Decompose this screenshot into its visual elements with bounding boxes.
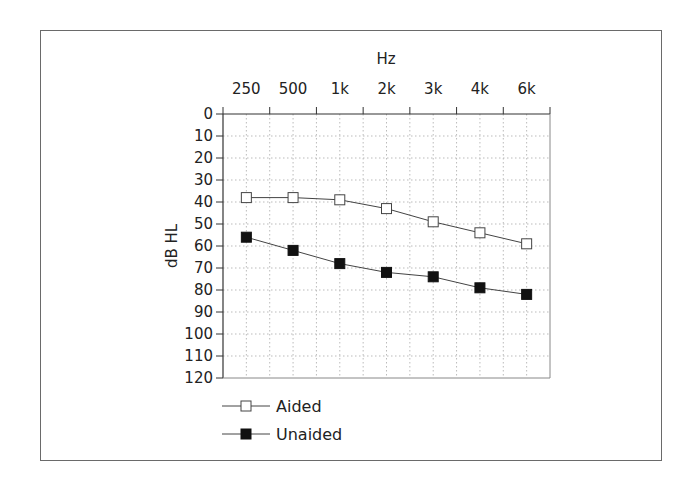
y-tick-label: 40: [194, 193, 213, 211]
aided-data-point: [288, 193, 298, 203]
y-tick-label: 30: [194, 171, 213, 189]
x-tick-label: 4k: [471, 80, 490, 98]
y-tick-label: 20: [194, 149, 213, 167]
y-tick-label: 70: [194, 259, 213, 277]
y-axis-title: dB HL: [163, 223, 181, 268]
x-axis-title: Hz: [376, 50, 395, 68]
grid-lines: [223, 114, 550, 378]
unaided-data-point: [428, 272, 438, 282]
y-tick-label: 10: [194, 127, 213, 145]
unaided-data-point: [522, 289, 532, 299]
y-tick-label: 100: [184, 325, 213, 343]
x-tick-label: 250: [232, 80, 261, 98]
unaided-data-point: [288, 245, 298, 255]
audiogram-chart: 01020304050607080901001101202505001k2k3k…: [0, 0, 693, 485]
unaided-data-point: [382, 267, 392, 277]
y-tick-label: 110: [184, 347, 213, 365]
aided-data-point: [382, 204, 392, 214]
legend-label: Unaided: [276, 425, 342, 444]
filled-square-marker-icon: [222, 427, 270, 441]
aided-data-point: [241, 193, 251, 203]
x-tick-label: 500: [279, 80, 308, 98]
y-tick-label: 60: [194, 237, 213, 255]
y-tick-label: 120: [184, 369, 213, 387]
aided-data-point: [522, 239, 532, 249]
unaided-data-point: [241, 232, 251, 242]
legend-item-unaided: Unaided: [222, 420, 342, 448]
y-tick-label: 0: [203, 105, 213, 123]
y-tick-label: 90: [194, 303, 213, 321]
legend-label: Aided: [276, 397, 322, 416]
aided-data-point: [475, 228, 485, 238]
x-tick-label: 2k: [377, 80, 396, 98]
aided-data-point: [335, 195, 345, 205]
x-tick-label: 6k: [518, 80, 537, 98]
legend-item-aided: Aided: [222, 392, 342, 420]
aided-data-point: [428, 217, 438, 227]
x-tick-label: 3k: [424, 80, 443, 98]
open-square-marker-icon: [222, 399, 270, 413]
unaided-data-point: [335, 259, 345, 269]
y-tick-label: 80: [194, 281, 213, 299]
y-tick-label: 50: [194, 215, 213, 233]
legend: Aided Unaided: [222, 392, 342, 448]
unaided-data-point: [475, 283, 485, 293]
x-tick-label: 1k: [331, 80, 350, 98]
